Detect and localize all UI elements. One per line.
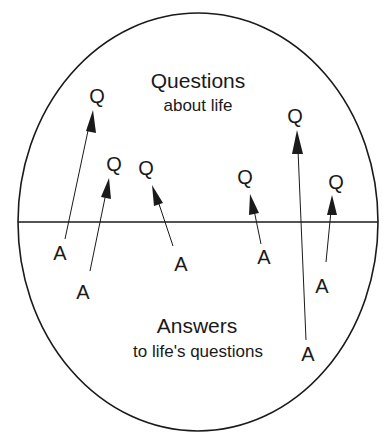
question-label: Q — [237, 167, 253, 187]
answer-label: A — [315, 276, 328, 296]
question-label: Q — [328, 172, 344, 192]
question-label: Q — [287, 106, 303, 126]
arrow-2 — [90, 178, 111, 271]
questions-answers-diagram — [0, 0, 389, 444]
answer-label: A — [53, 243, 66, 263]
arrow-6 — [326, 195, 337, 262]
question-label: Q — [106, 154, 122, 174]
arrow-1 — [65, 110, 96, 239]
arrow-5 — [292, 130, 306, 340]
top-region-title: Questions — [151, 70, 246, 91]
bottom-region-subtitle: to life's questions — [133, 343, 263, 360]
answer-label: A — [301, 344, 314, 364]
question-label: Q — [138, 158, 154, 178]
arrowhead-icon — [292, 130, 303, 154]
answer-label: A — [76, 282, 89, 302]
arrow-4 — [249, 194, 261, 244]
arrowhead-icon — [101, 178, 111, 199]
answer-label: A — [174, 254, 187, 274]
bottom-region-title: Answers — [157, 315, 238, 336]
top-region-subtitle: about life — [164, 97, 233, 114]
question-label: Q — [89, 86, 105, 106]
arrow-3 — [152, 185, 173, 246]
arrowhead-icon — [249, 194, 259, 215]
arrowhead-icon — [327, 195, 337, 215]
arrowhead-icon — [86, 110, 96, 133]
arrowhead-icon — [152, 185, 163, 206]
answer-label: A — [257, 247, 270, 267]
